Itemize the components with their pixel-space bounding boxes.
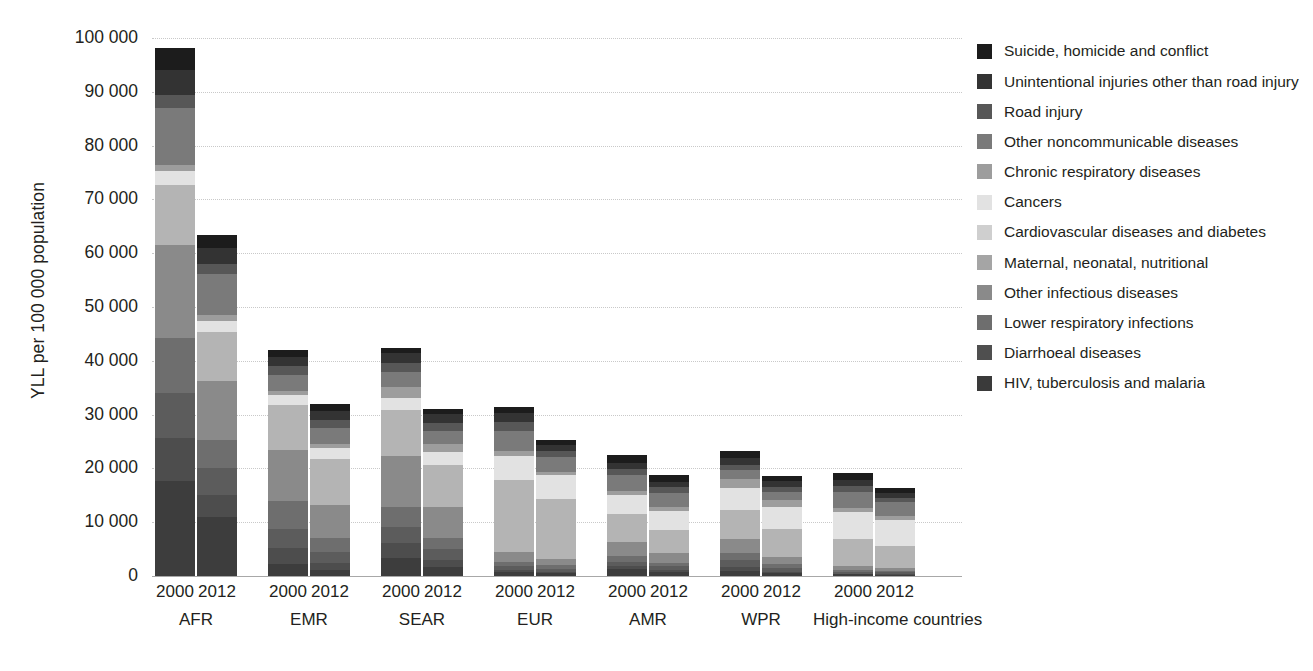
bar-segment	[762, 492, 802, 500]
bar-segment	[268, 357, 308, 367]
bar-segment	[381, 543, 421, 559]
bar-segment	[536, 499, 576, 560]
legend-swatch-icon	[977, 44, 992, 59]
bar-segment	[833, 492, 873, 508]
x-axis-group-label: AFR	[135, 610, 257, 630]
bar-afr-2000[interactable]	[155, 48, 195, 576]
bar-sear-2000[interactable]	[381, 348, 421, 576]
bar-segment	[197, 264, 237, 274]
bar-segment	[423, 560, 463, 567]
legend-swatch-icon	[977, 74, 992, 89]
bar-segment	[833, 574, 873, 576]
legend-item[interactable]: Suicide, homicide and conflict	[977, 36, 1307, 66]
bar-segment	[155, 438, 195, 482]
bar-high-income-countries-2000[interactable]	[833, 473, 873, 576]
bar-segment	[155, 338, 195, 393]
bar-segment	[381, 398, 421, 410]
bar-segment	[381, 387, 421, 398]
x-axis-group-label: High-income countries	[813, 610, 935, 630]
bar-segment	[423, 567, 463, 576]
bar-segment	[649, 511, 689, 529]
bar-segment	[381, 363, 421, 372]
bar-segment	[607, 455, 647, 463]
bar-segment	[155, 245, 195, 338]
bar-segment	[720, 488, 760, 510]
axis-baseline	[152, 576, 962, 577]
bar-segment	[381, 410, 421, 456]
bar-segment	[310, 411, 350, 420]
bar-wpr-2012[interactable]	[762, 476, 802, 576]
bar-segment	[197, 468, 237, 494]
bar-segment	[155, 108, 195, 164]
legend-item[interactable]: Other infectious diseases	[977, 278, 1307, 308]
bar-segment	[423, 538, 463, 549]
bar-segment	[155, 165, 195, 172]
bar-segment	[875, 575, 915, 576]
bar-eur-2000[interactable]	[494, 407, 534, 576]
bar-segment	[536, 475, 576, 498]
legend-swatch-icon	[977, 345, 992, 360]
legend-item[interactable]: Other noncommunicable diseases	[977, 127, 1307, 157]
bar-segment	[720, 560, 760, 567]
bar-emr-2000[interactable]	[268, 350, 308, 576]
bar-amr-2012[interactable]	[649, 475, 689, 576]
bar-segment	[268, 548, 308, 564]
chart-legend: Suicide, homicide and conflictUnintentio…	[977, 36, 1307, 398]
bar-segment	[155, 70, 195, 95]
y-axis-tick-label: 90 000	[30, 81, 138, 102]
y-axis-tick-label: 80 000	[30, 135, 138, 156]
bar-emr-2012[interactable]	[310, 404, 350, 576]
bar-segment	[197, 517, 237, 576]
legend-item[interactable]: Road injury	[977, 96, 1307, 126]
bar-sear-2012[interactable]	[423, 409, 463, 576]
bar-segment	[607, 495, 647, 514]
x-axis-group-label: SEAR	[361, 610, 483, 630]
bar-segment	[762, 507, 802, 529]
bar-segment	[155, 171, 195, 184]
stacked-bar-chart: YLL per 100 000 population 010 00020 000…	[0, 0, 1313, 671]
bar-segment	[197, 321, 237, 332]
bar-segment	[649, 493, 689, 507]
legend-item-label: Other infectious diseases	[1004, 285, 1178, 301]
bar-segment	[268, 375, 308, 391]
x-axis-year-label: 2012	[187, 582, 247, 602]
bar-segment	[268, 350, 308, 357]
legend-item[interactable]: Maternal, neonatal, nutritional	[977, 247, 1307, 277]
legend-item[interactable]: Lower respiratory infections	[977, 308, 1307, 338]
legend-swatch-icon	[977, 376, 992, 391]
x-axis-year-label: 2012	[300, 582, 360, 602]
legend-item[interactable]: Unintentional injuries other than road i…	[977, 66, 1307, 96]
gridline	[152, 307, 962, 308]
legend-item[interactable]: Cardiovascular diseases and diabetes	[977, 217, 1307, 247]
bar-segment	[720, 458, 760, 465]
bar-high-income-countries-2012[interactable]	[875, 488, 915, 576]
bar-segment	[310, 570, 350, 576]
bar-segment	[762, 500, 802, 507]
bar-segment	[494, 431, 534, 451]
bar-segment	[494, 480, 534, 553]
legend-swatch-icon	[977, 104, 992, 119]
bar-segment	[381, 527, 421, 543]
legend-item[interactable]: Chronic respiratory diseases	[977, 157, 1307, 187]
bar-segment	[607, 542, 647, 556]
bar-amr-2000[interactable]	[607, 455, 647, 576]
bar-segment	[197, 440, 237, 468]
bar-segment	[762, 529, 802, 557]
bar-segment	[875, 546, 915, 568]
bar-segment	[310, 448, 350, 459]
gridline	[152, 38, 962, 39]
bar-segment	[720, 571, 760, 576]
bar-segment	[423, 549, 463, 560]
y-axis-tick-label: 0	[30, 565, 138, 586]
gridline	[152, 199, 962, 200]
x-axis-group-label: EMR	[248, 610, 370, 630]
legend-item[interactable]: Cancers	[977, 187, 1307, 217]
bar-afr-2012[interactable]	[197, 235, 237, 576]
x-axis-group-label: EUR	[474, 610, 596, 630]
legend-item[interactable]: Diarrhoeal diseases	[977, 338, 1307, 368]
y-axis-tick-label: 100 000	[30, 27, 138, 48]
bar-segment	[423, 423, 463, 431]
bar-eur-2012[interactable]	[536, 440, 576, 576]
legend-item[interactable]: HIV, tuberculosis and malaria	[977, 368, 1307, 398]
bar-wpr-2000[interactable]	[720, 451, 760, 576]
